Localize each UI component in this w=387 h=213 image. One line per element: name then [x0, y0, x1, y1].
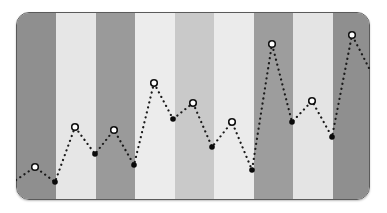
- filled-dot-marker: [329, 134, 335, 140]
- open-circle-marker: [349, 32, 356, 39]
- open-circle-marker: [229, 119, 236, 126]
- dotted-line: [16, 35, 370, 182]
- open-circle-marker: [151, 80, 158, 87]
- open-circle-marker: [72, 124, 79, 131]
- filled-dot-marker: [170, 116, 176, 122]
- filled-dot-marker: [249, 167, 255, 173]
- open-circle-marker: [190, 100, 197, 107]
- filled-dot-marker: [289, 119, 295, 125]
- filled-dot-marker: [92, 151, 98, 157]
- filled-dot-marker: [209, 144, 215, 150]
- filled-dot-marker: [52, 179, 58, 185]
- open-circle-marker: [32, 164, 39, 171]
- open-circle-marker: [111, 127, 118, 134]
- open-circle-marker: [269, 41, 276, 48]
- filled-dot-marker: [131, 162, 137, 168]
- open-circle-marker: [309, 98, 316, 105]
- zigzag-dotted-line-plot: [0, 0, 387, 213]
